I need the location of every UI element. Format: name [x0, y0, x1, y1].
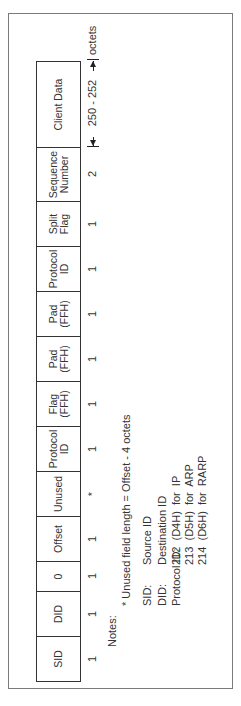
- field-label: Unused: [53, 476, 64, 512]
- octets-offset: 1: [86, 519, 98, 559]
- field-label: 0: [53, 574, 64, 580]
- field-protocol-id-2: Protocol ID: [36, 246, 81, 292]
- arrow-line: [93, 137, 94, 146]
- client-data-range-arrow: 250 - 252: [86, 59, 100, 147]
- octets-protocol-id-1: 1: [86, 429, 98, 469]
- field-label: Offset: [53, 525, 64, 553]
- field-offset: Offset: [36, 516, 81, 562]
- field-protocol-id-1: Protocol ID: [36, 426, 81, 472]
- field-label: Flag (FFH): [48, 390, 70, 417]
- field-label: DID: [53, 605, 64, 623]
- field-label: Client Data: [53, 79, 64, 131]
- octets-sequence-number: 2: [86, 154, 98, 194]
- definition-value-did: Destination ID: [156, 496, 168, 565]
- octets-unused: *: [86, 474, 98, 514]
- rotated-diagram: SID DID 0 Offset Unused Protocol ID Flag…: [0, 0, 241, 706]
- definition-term-sid: SID:: [141, 585, 153, 606]
- field-did: DID: [36, 591, 81, 637]
- octets-unit-label: octets: [86, 26, 98, 55]
- octets-did: 1: [86, 594, 98, 634]
- field-label: Pad (FFH): [48, 300, 70, 327]
- field-label: Split Flag: [48, 214, 70, 234]
- field-label: SID: [53, 650, 64, 668]
- arrowhead-right-icon: [90, 61, 96, 67]
- range-tick-right: [87, 59, 99, 60]
- field-pad-2: Pad (FFH): [36, 291, 81, 337]
- field-client-data: Client Data: [36, 61, 81, 148]
- field-unused: Unused: [36, 471, 81, 517]
- field-sid: SID: [36, 636, 81, 682]
- field-sequence-number: Sequence Number: [36, 147, 81, 202]
- notes-heading: Notes:: [106, 615, 118, 647]
- protocol-id-rarp: 214 (D6H) for RARP: [196, 456, 208, 565]
- field-pad-1: Pad (FFH): [36, 336, 81, 382]
- octets-pad-1: 1: [86, 339, 98, 379]
- definition-term-did: DID:: [156, 584, 168, 606]
- field-split-flag: Split Flag: [36, 201, 81, 247]
- octets-pad-2: 1: [86, 294, 98, 334]
- client-data-range-label: 250 - 252: [86, 72, 98, 134]
- octets-protocol-id-2: 1: [86, 249, 98, 289]
- unused-field-note: * Unused field length = Offset - 4 octet…: [120, 415, 132, 607]
- definition-value-sid: Source ID: [141, 516, 153, 565]
- octets-split-flag: 1: [86, 204, 98, 244]
- field-label: Protocol ID: [48, 250, 70, 289]
- octets-zero: 1: [86, 556, 98, 596]
- range-tick-left: [87, 146, 99, 147]
- protocol-id-arp: 213 (D5H) for ARP: [183, 464, 195, 565]
- protocol-id-ip: 212 (D4H) for IP: [170, 476, 182, 565]
- field-label: Pad (FFH): [48, 345, 70, 372]
- field-label: Protocol ID: [48, 430, 70, 469]
- field-label: Sequence Number: [48, 151, 70, 198]
- octets-flag: 1: [86, 384, 98, 424]
- field-zero: 0: [36, 561, 81, 592]
- octets-sid: 1: [86, 639, 98, 679]
- field-flag: Flag (FFH): [36, 381, 81, 427]
